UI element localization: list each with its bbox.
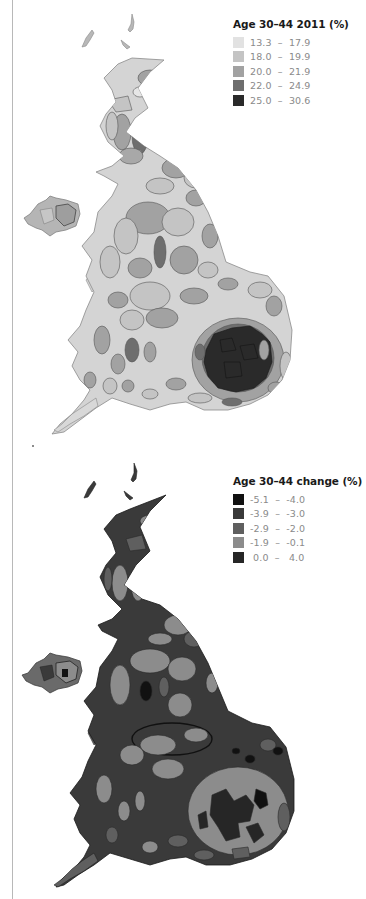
legend-range-label: -5.1 – -4.0 [250, 494, 305, 505]
northern-ireland-change [22, 653, 82, 693]
legend-change: Age 30–44 change (%) -5.1 – -4.0 -3.9 – … [233, 475, 366, 565]
legend-title: Age 30–44 change (%) [233, 475, 366, 487]
legend-range-label: -2.9 – -2.0 [250, 523, 305, 534]
legend-swatch [233, 37, 244, 48]
legend-item: 20.0 – 21.9 [233, 64, 366, 79]
legend-swatch [233, 552, 244, 563]
legend-swatch [233, 537, 244, 548]
scilly-isles-dot [32, 445, 34, 447]
legend-range-label: -3.9 – -3.0 [250, 508, 305, 519]
map-panel-change: Age 30–44 change (%) -5.1 – -4.0 -3.9 – … [0, 455, 366, 899]
legend-item: 0.0 – 4.0 [233, 550, 366, 565]
legend-title: Age 30–44 2011 (%) [233, 18, 366, 30]
legend-swatch [233, 66, 244, 77]
legend-swatch [233, 95, 244, 106]
legend-range-label: 22.0 – 24.9 [250, 80, 310, 91]
legend-item: -2.9 – -2.0 [233, 521, 366, 536]
northern-ireland-2011 [24, 196, 80, 236]
legend-range-label: 18.0 – 19.9 [250, 51, 310, 62]
legend-swatch [233, 51, 244, 62]
legend-2011: Age 30–44 2011 (%) 13.3 – 17.9 18.0 – 19… [233, 18, 366, 108]
legend-range-label: 25.0 – 30.6 [250, 95, 310, 106]
legend-swatch [233, 80, 244, 91]
map-panel-2011: Age 30–44 2011 (%) 13.3 – 17.9 18.0 – 19… [0, 0, 366, 450]
legend-range-label: 0.0 – 4.0 [250, 552, 304, 563]
legend-swatch [233, 523, 244, 534]
legend-range-label: -1.9 – -0.1 [250, 537, 305, 548]
great-britain-2011 [52, 58, 292, 434]
legend-swatch [233, 494, 244, 505]
legend-item: 25.0 – 30.6 [233, 93, 366, 108]
legend-item: 13.3 – 17.9 [233, 35, 366, 50]
legend-item: 22.0 – 24.9 [233, 79, 366, 94]
legend-item: -5.1 – -4.0 [233, 492, 366, 507]
legend-range-label: 13.3 – 17.9 [250, 37, 310, 48]
legend-item: -1.9 – -0.1 [233, 536, 366, 551]
legend-item: 18.0 – 19.9 [233, 50, 366, 65]
legend-range-label: 20.0 – 21.9 [250, 66, 310, 77]
northern-islands [84, 463, 137, 500]
northern-islands [82, 14, 134, 49]
legend-item: -3.9 – -3.0 [233, 507, 366, 522]
legend-swatch [233, 508, 244, 519]
